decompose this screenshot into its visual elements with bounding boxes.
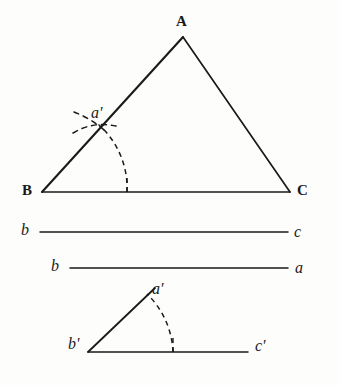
triangle-side-AB bbox=[42, 37, 183, 192]
label-b-left-2: b bbox=[51, 258, 59, 274]
label-b-prime: b' bbox=[68, 336, 79, 352]
label-c-right-1: c bbox=[294, 224, 301, 240]
construction-arc-upper bbox=[99, 125, 128, 193]
label-A: A bbox=[176, 14, 187, 29]
geometry-figure: A B C a' b c b a a' b' c' bbox=[0, 0, 340, 385]
figure-canvas bbox=[0, 0, 340, 385]
label-c-prime: c' bbox=[255, 338, 266, 354]
label-C: C bbox=[297, 183, 308, 198]
angle-ray-b-a-prime bbox=[88, 288, 155, 352]
label-b-left-1: b bbox=[21, 222, 29, 238]
construction-arc-lower bbox=[147, 294, 173, 352]
label-a-right-2: a bbox=[295, 260, 303, 276]
triangle-ABC bbox=[42, 37, 290, 192]
triangle-side-AC bbox=[183, 37, 290, 192]
label-a-prime-lower: a' bbox=[152, 281, 163, 297]
angle-b-prime bbox=[88, 288, 248, 352]
label-B: B bbox=[22, 183, 32, 198]
label-a-prime-upper: a' bbox=[91, 105, 102, 121]
